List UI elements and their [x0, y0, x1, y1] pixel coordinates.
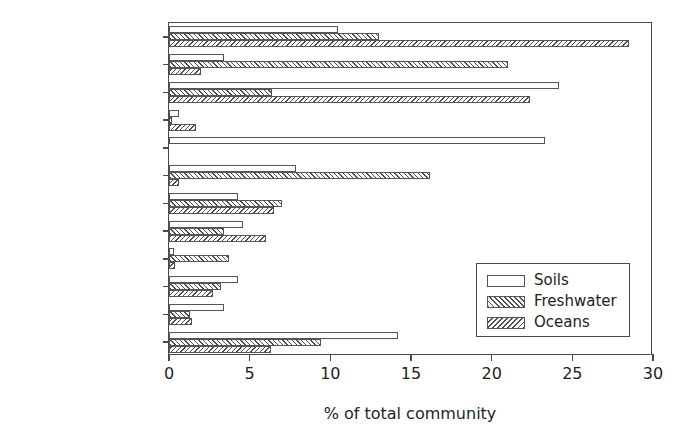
- bar-delta-soils: [169, 110, 179, 117]
- y-axis-tick: [163, 147, 169, 148]
- x-axis-tick-label-30: 30: [633, 364, 673, 383]
- bar-actinobacteria-oceans: [169, 179, 179, 186]
- bar-beta-soils: [169, 54, 224, 61]
- x-axis-tick: [410, 354, 411, 361]
- bar-planctomycetes-soils: [169, 304, 224, 311]
- bar-actinobacteria-freshwater: [169, 172, 430, 179]
- category-row: Gamma: [169, 79, 651, 106]
- chart-legend: Soils Freshwater Oceans: [476, 263, 630, 337]
- x-axis-tick: [168, 354, 169, 361]
- x-axis-tick-label-15: 15: [391, 364, 431, 383]
- x-axis-title: % of total community: [168, 404, 652, 423]
- bar-gamma-soils: [169, 82, 559, 89]
- bar-planctomycetes-freshwater: [169, 311, 190, 318]
- bar-cyanobacteria-oceans: [169, 235, 266, 242]
- category-row: Alpha: [169, 23, 651, 50]
- bar-delta-oceans: [169, 124, 196, 131]
- bar-firmicutes-freshwater: [169, 255, 229, 262]
- legend-swatch-oceans-icon: [487, 317, 525, 329]
- bar-alpha-oceans: [169, 40, 629, 47]
- bar-planctomycetes-oceans: [169, 318, 192, 325]
- legend-item-soils: Soils: [487, 270, 629, 291]
- bar-delta-freshwater: [169, 117, 172, 124]
- x-axis-tick-label-20: 20: [472, 364, 512, 383]
- legend-label-soils: Soils: [534, 273, 569, 288]
- bar-verrucomicrobia-soils: [169, 276, 238, 283]
- x-axis-tick-label-5: 5: [230, 364, 270, 383]
- legend-swatch-soils-icon: [487, 275, 525, 287]
- legend-swatch-freshwater-icon: [487, 296, 525, 308]
- x-axis-tick: [652, 354, 653, 361]
- x-axis-tick: [249, 354, 250, 361]
- bar-beta-freshwater: [169, 61, 508, 68]
- x-axis-tick: [330, 354, 331, 361]
- x-axis-tick-label-0: 0: [149, 364, 189, 383]
- bar-cyanobacteria-soils: [169, 221, 243, 228]
- legend-item-freshwater: Freshwater: [487, 291, 629, 312]
- x-axis-tick-label-25: 25: [552, 364, 592, 383]
- x-axis-tick: [491, 354, 492, 361]
- bar-acidobacteria-soils: [169, 137, 545, 144]
- bar-gamma-oceans: [169, 96, 530, 103]
- category-row: Acidobacteria: [169, 134, 651, 161]
- bar-actinobacteria-soils: [169, 165, 296, 172]
- category-row: Delta: [169, 106, 651, 133]
- bar-other-soils: [169, 332, 398, 339]
- bar-alpha-soils: [169, 26, 338, 33]
- legend-item-oceans: Oceans: [487, 312, 629, 333]
- bar-bacteroidetes-freshwater: [169, 200, 282, 207]
- bar-verrucomicrobia-freshwater: [169, 283, 221, 290]
- category-row: Bacteroidetes: [169, 190, 651, 217]
- category-row: Actinobacteria: [169, 162, 651, 189]
- category-row: Cyanobacteria: [169, 217, 651, 244]
- bar-alpha-freshwater: [169, 33, 379, 40]
- x-axis-tick: [572, 354, 573, 361]
- bar-cyanobacteria-freshwater: [169, 228, 224, 235]
- category-row: Beta: [169, 51, 651, 78]
- bar-beta-oceans: [169, 68, 201, 75]
- legend-label-freshwater: Freshwater: [534, 294, 617, 309]
- bar-other-oceans: [169, 346, 271, 353]
- bar-verrucomicrobia-oceans: [169, 290, 213, 297]
- bar-other-freshwater: [169, 339, 321, 346]
- legend-label-oceans: Oceans: [534, 315, 590, 330]
- bar-bacteroidetes-oceans: [169, 207, 274, 214]
- bar-gamma-freshwater: [169, 89, 272, 96]
- bar-bacteroidetes-soils: [169, 193, 238, 200]
- bar-firmicutes-soils: [169, 248, 174, 255]
- bar-firmicutes-oceans: [169, 262, 175, 269]
- bar-chart-figure: AlphaBetaGammaDeltaAcidobacteriaActinoba…: [0, 0, 676, 445]
- x-axis-tick-label-10: 10: [310, 364, 350, 383]
